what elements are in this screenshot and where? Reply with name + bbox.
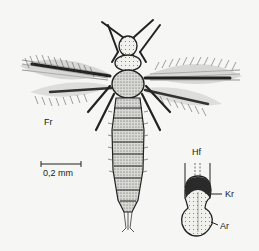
- label-foot-detail: Hf: [192, 148, 201, 157]
- thorax: [112, 70, 144, 98]
- label-fringed-wing: Fr: [44, 118, 53, 127]
- label-arolium: Ar: [220, 222, 229, 231]
- prothorax: [115, 55, 141, 71]
- label-scale: 0,2 mm: [43, 169, 73, 178]
- abdomen: [112, 98, 144, 212]
- tarsus-detail: [182, 163, 222, 236]
- thrips-illustration: Fr 0,2 mm Hf Kr Ar: [0, 0, 259, 251]
- head: [119, 36, 137, 56]
- label-claw: Kr: [225, 190, 234, 199]
- abdomen-tip: [122, 212, 134, 232]
